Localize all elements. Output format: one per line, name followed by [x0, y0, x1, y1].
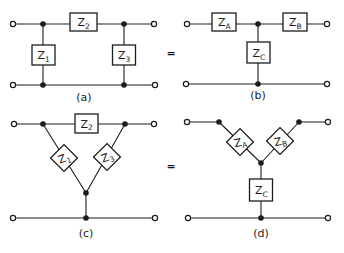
node-dot — [255, 21, 261, 27]
terminal — [325, 215, 330, 220]
node-dot — [121, 21, 127, 27]
terminal — [151, 121, 156, 126]
caption-b: (b) — [250, 89, 266, 102]
terminal — [151, 21, 156, 26]
equals-sign-top: = — [166, 47, 175, 60]
node-dot — [83, 190, 89, 196]
node-dot — [296, 119, 302, 125]
figure-canvas: Z2 Z1 Z3 (a) = ZA ZB ZC (b) — [0, 0, 344, 253]
terminal — [11, 121, 16, 126]
node-dot — [255, 81, 261, 87]
node-dot — [258, 215, 264, 221]
terminal — [184, 21, 189, 26]
circuit-d-wye-network: ZA ZB ZC (d) — [184, 119, 330, 240]
terminal — [324, 81, 329, 86]
terminal — [185, 215, 190, 220]
circuit-c-delta-network: Z2 Z1 Z3 (c) — [10, 114, 157, 240]
circuit-b-t-network: ZA ZB ZC (b) — [183, 13, 329, 102]
node-dot — [121, 82, 127, 88]
node-dot — [83, 215, 89, 221]
terminal — [184, 119, 189, 124]
circuit-a-pi-network: Z2 Z1 Z3 (a) — [10, 13, 157, 104]
node-dot — [40, 82, 46, 88]
terminal — [152, 82, 157, 87]
node-dot — [258, 160, 264, 166]
network-equivalence-figure: Z2 Z1 Z3 (a) = ZA ZB ZC (b) — [0, 0, 344, 253]
terminal — [325, 119, 330, 124]
node-dot — [40, 121, 46, 127]
node-dot — [122, 121, 128, 127]
caption-d: (d) — [253, 227, 269, 240]
terminal — [10, 215, 15, 220]
terminal — [152, 215, 157, 220]
node-dot — [216, 119, 222, 125]
equals-sign-bottom: = — [166, 160, 175, 173]
terminal — [10, 82, 15, 87]
caption-c: (c) — [79, 227, 94, 240]
terminal — [324, 21, 329, 26]
node-dot — [40, 21, 46, 27]
terminal — [183, 81, 188, 86]
caption-a: (a) — [76, 91, 91, 104]
terminal — [10, 21, 15, 26]
